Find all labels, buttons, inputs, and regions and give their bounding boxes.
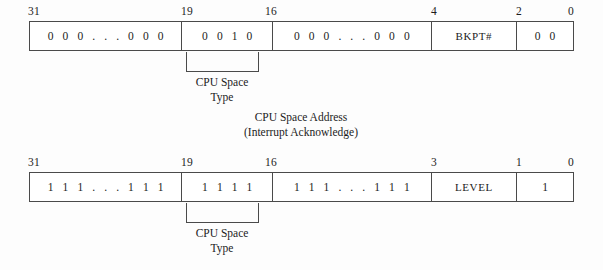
bit-label-row2-16: 16 [265,156,277,169]
field-lower-one: 1 [517,173,573,201]
field-bkpt-number-text: BKPT# [456,30,493,43]
field-upper-ones-text: 1 1 1 . . . 1 1 1 [45,181,167,194]
cpu-space-type-bracket-row1 [186,52,259,72]
bit-label-row2-31: 31 [28,156,40,169]
bit-label-row1-31: 31 [28,5,40,18]
bit-label-row1-2: 2 [516,5,522,18]
center-caption-line1: CPU Space Address [255,111,348,123]
center-caption-line2: (Interrupt Acknowledge) [176,125,426,140]
field-middle-zeros: 0 0 0 . . . 0 0 0 [273,22,431,50]
field-level: LEVEL [432,173,518,201]
register-row-interrupt-acknowledge: 0 0 0 . . . 0 0 0 0 0 1 0 0 0 0 . . . 0 … [29,21,574,51]
field-cpu-space-type-row2-text: 1 1 1 1 [199,181,255,194]
field-lower-one-text: 1 [539,181,551,194]
cpu-space-type-label-row2: CPU Space Type [172,226,272,255]
bit-label-row1-4: 4 [431,5,437,18]
field-lower-zeros-text: 0 0 [532,30,559,43]
field-cpu-space-type-text: 0 0 1 0 [199,30,255,43]
cpu-space-type-label-row1: CPU Space Type [172,75,272,104]
field-level-text: LEVEL [455,181,493,194]
cpu-space-address-diagram: 31 19 16 4 2 0 0 0 0 . . . 0 0 0 0 0 1 0… [0,0,603,270]
cpu-space-type-label-row1-line2: Type [172,90,272,105]
field-lower-zeros: 0 0 [517,22,573,50]
field-middle-zeros-text: 0 0 0 . . . 0 0 0 [291,30,413,43]
field-middle-ones-text: 1 1 1 . . . 1 1 1 [291,181,413,194]
bit-label-row1-0: 0 [568,5,574,18]
cpu-space-type-label-row2-line2: Type [172,241,272,256]
field-upper-zeros: 0 0 0 . . . 0 0 0 [30,22,182,50]
bit-label-row2-3: 3 [431,156,437,169]
field-upper-zeros-text: 0 0 0 . . . 0 0 0 [45,30,167,43]
field-bkpt-number: BKPT# [432,22,518,50]
bit-label-row1-19: 19 [181,5,193,18]
field-cpu-space-type: 0 0 1 0 [182,22,273,50]
cpu-space-type-label-row2-line1: CPU Space [196,227,249,239]
center-caption: CPU Space Address (Interrupt Acknowledge… [176,110,426,139]
field-cpu-space-type-row2: 1 1 1 1 [182,173,273,201]
bit-label-row2-1: 1 [516,156,522,169]
field-middle-ones: 1 1 1 . . . 1 1 1 [273,173,431,201]
register-row-interrupt-level: 1 1 1 . . . 1 1 1 1 1 1 1 1 1 1 . . . 1 … [29,172,574,202]
bit-label-row2-19: 19 [181,156,193,169]
bit-label-row2-0: 0 [568,156,574,169]
field-upper-ones: 1 1 1 . . . 1 1 1 [30,173,182,201]
cpu-space-type-label-row1-line1: CPU Space [196,76,249,88]
cpu-space-type-bracket-row2 [186,203,259,223]
bit-label-row1-16: 16 [265,5,277,18]
